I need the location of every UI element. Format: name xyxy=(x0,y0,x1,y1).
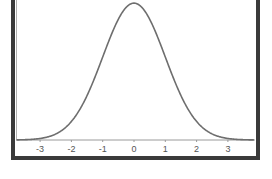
normal-distribution-chart: -3-2-10123 xyxy=(0,0,272,179)
x-tick-label: 0 xyxy=(131,144,136,154)
x-axis-ticks: -3-2-10123 xyxy=(36,140,230,154)
bell-curve xyxy=(17,3,254,140)
chart-frame xyxy=(13,0,258,158)
x-tick-label: -3 xyxy=(36,144,44,154)
x-tick-label: 2 xyxy=(194,144,199,154)
x-tick-label: 1 xyxy=(163,144,168,154)
x-tick-label: 3 xyxy=(225,144,230,154)
x-tick-label: -2 xyxy=(67,144,75,154)
x-tick-label: -1 xyxy=(99,144,107,154)
